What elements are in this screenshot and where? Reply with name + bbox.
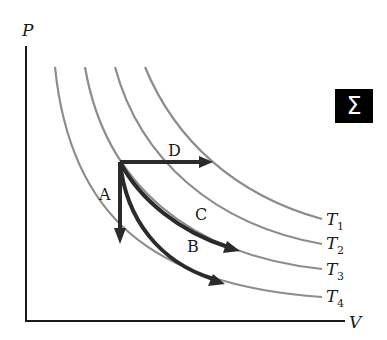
process-arrow-c (120, 162, 228, 247)
arrowhead-icon (223, 241, 240, 253)
process-label-a: A (98, 185, 111, 204)
isotherm-subscript-t1: 1 (337, 220, 344, 233)
arrowhead-icon (199, 156, 213, 168)
y-axis-label: P (21, 20, 34, 40)
isotherm-subscript-t2: 2 (337, 244, 344, 257)
process-label-c: C (195, 205, 207, 224)
isotherm-subscript-t4: 4 (337, 297, 344, 310)
diagram-canvas: P V T1T2T3T4 ABCD (0, 0, 387, 340)
pv-diagram: P V T1T2T3T4 ABCD Σ (0, 0, 387, 340)
sigma-icon: Σ (335, 89, 373, 123)
arrowhead-icon (114, 228, 126, 244)
isotherm-t2 (115, 67, 322, 244)
isotherm-subscript-t3: 3 (337, 270, 344, 283)
process-label-d: D (168, 141, 181, 160)
process-label-b: B (187, 237, 199, 256)
x-axis-label: V (349, 312, 363, 332)
